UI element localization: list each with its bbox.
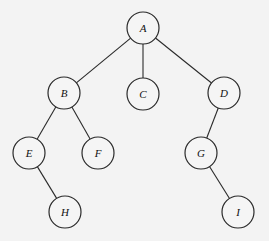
node-f: F (82, 137, 114, 169)
node-e: E (13, 137, 45, 169)
edge-b-e (37, 107, 56, 139)
node-label: E (25, 147, 33, 159)
node-label: D (219, 87, 228, 99)
tree-nodes: ABCDEFGHI (13, 12, 254, 228)
edge-e-h (37, 167, 56, 199)
node-label: F (94, 147, 102, 159)
node-g: G (185, 137, 217, 169)
node-label: C (139, 88, 147, 100)
node-a: A (127, 12, 159, 44)
node-label: G (197, 147, 205, 159)
node-c: C (127, 78, 159, 110)
node-label: A (139, 22, 147, 34)
node-i: I (222, 196, 254, 228)
node-d: D (208, 77, 240, 109)
node-b: B (48, 77, 80, 109)
edge-d-g (207, 108, 219, 138)
edge-a-d (155, 38, 211, 83)
edge-b-f (72, 107, 90, 139)
edge-a-b (76, 38, 130, 83)
node-label: H (60, 206, 70, 218)
tree-diagram: ABCDEFGHI (0, 0, 269, 241)
tree-edges (37, 38, 229, 198)
edge-g-i (210, 167, 230, 199)
node-label: B (61, 87, 68, 99)
node-h: H (49, 196, 81, 228)
